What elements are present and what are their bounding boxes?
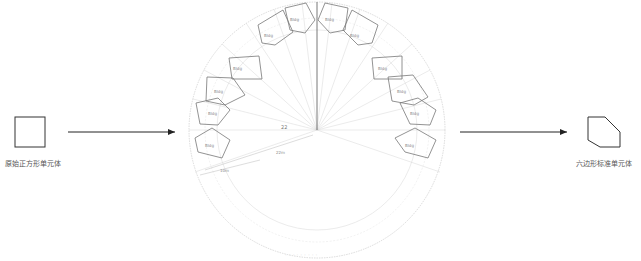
angle-label: 22 <box>281 124 287 130</box>
diagram-svg: Bldg Bldg Bldg Bldg Bldg Bldg Bldg Bldg … <box>0 0 641 261</box>
cell-label: Bldg <box>205 143 214 148</box>
cell-label: Bldg <box>290 17 299 22</box>
cell-label: Bldg <box>208 111 217 116</box>
cell-label: Bldg <box>350 33 359 38</box>
dimension-label-outer: 10m <box>220 168 229 173</box>
cell-label: Bldg <box>410 111 419 116</box>
radial-layout-figure: Bldg Bldg Bldg Bldg Bldg Bldg Bldg Bldg … <box>189 2 445 258</box>
bottom-caption: · · · · · · · · · <box>285 251 317 258</box>
dimension-label-inner: 22m <box>276 150 285 155</box>
square-unit-icon <box>15 117 45 147</box>
cell-label: Bldg <box>397 89 406 94</box>
hexagon-unit-caption: 六边形标准单元体 <box>576 158 632 168</box>
cell-label: Bldg <box>405 143 414 148</box>
hexagon-unit-icon <box>588 117 620 147</box>
cell-label: Bldg <box>214 89 223 94</box>
cell-label: Bldg <box>325 17 334 22</box>
cell-label: Bldg <box>233 66 242 71</box>
diagram-canvas: Bldg Bldg Bldg Bldg Bldg Bldg Bldg Bldg … <box>0 0 641 261</box>
cell-label: Bldg <box>378 66 387 71</box>
square-unit-caption: 原始正方形单元体 <box>5 158 61 168</box>
cell-label: Bldg <box>264 33 273 38</box>
